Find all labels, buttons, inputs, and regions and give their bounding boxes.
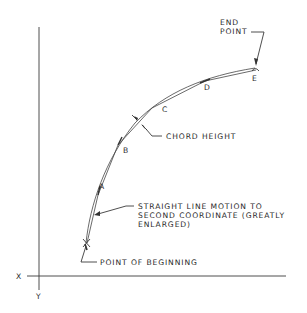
point-of-beginning-label: POINT OF BEGINNING	[100, 258, 198, 267]
straight-line-label-1: STRAIGHT LINE MOTION TO	[138, 202, 263, 211]
interpolation-diagram: X Y A B C D E END POINT CHORD HEIGHT	[0, 0, 307, 313]
straight-line-motion-callout: STRAIGHT LINE MOTION TO SECOND COORDINAT…	[94, 202, 285, 229]
point-of-beginning-callout: POINT OF BEGINNING	[81, 246, 198, 267]
y-axis-label: Y	[35, 292, 42, 301]
arrowhead-icon	[94, 211, 100, 216]
point-label-d: D	[204, 83, 211, 92]
end-point-callout: END POINT	[220, 18, 264, 66]
point-label-c: C	[162, 105, 168, 114]
end-point-label-line2: POINT	[220, 27, 248, 36]
chord-height-callout: CHORD HEIGHT	[132, 115, 236, 141]
chord-height-label: CHORD HEIGHT	[166, 132, 236, 141]
arrowhead-icon	[254, 58, 258, 66]
arrowhead-icon	[141, 124, 145, 129]
point-label-a: A	[99, 182, 105, 191]
point-label-e: E	[252, 74, 258, 83]
straight-line-label-2: SECOND COORDINATE (GREATLY	[138, 211, 285, 220]
point-label-b: B	[123, 146, 129, 155]
straight-line-label-3: ENLARGED)	[138, 220, 191, 229]
end-point-label-line1: END	[220, 18, 239, 27]
x-axis-label: X	[16, 272, 22, 281]
